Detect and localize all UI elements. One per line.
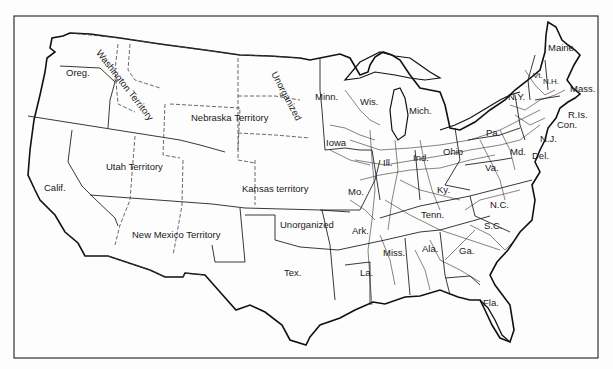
label-new-jersey: N.J. [540, 134, 557, 144]
label-unorganized-south: Unorganized [280, 220, 334, 230]
label-arkansas: Ark. [352, 226, 369, 236]
label-minnesota: Minn. [315, 92, 338, 102]
label-oregon: Oreg. [66, 68, 90, 78]
label-new-mexico-territory: New Mexico Territory [132, 230, 221, 240]
label-georgia: Ga. [459, 246, 474, 256]
label-north-carolina: N.C. [490, 200, 509, 210]
label-missouri: Mo. [348, 187, 364, 197]
label-massachusetts: Mass. [570, 84, 595, 94]
label-florida: Fla. [483, 298, 499, 308]
label-alabama: Ala. [422, 244, 438, 254]
label-virginia: Va. [485, 163, 499, 173]
label-connecticut: Con. [557, 120, 577, 130]
label-kansas-territory: Kansas territory [242, 184, 309, 194]
label-kentucky: Ky. [437, 185, 450, 195]
label-wisconsin: Wis. [360, 97, 378, 107]
label-maine: Maine [548, 43, 574, 53]
label-texas: Tex. [284, 268, 301, 278]
label-tennessee: Tenn. [421, 210, 444, 220]
label-utah-territory: Utah Territory [106, 162, 163, 172]
label-michigan: Mich. [409, 106, 432, 116]
label-mississippi: Miss. [383, 248, 405, 258]
label-maryland: Md. [510, 147, 526, 157]
label-pennsylvania: Pa. [486, 128, 500, 138]
label-illinois: Ill. [383, 158, 393, 168]
label-ohio: Ohio [443, 147, 463, 157]
label-vermont: Vt. [533, 72, 543, 80]
label-nebraska-territory: Nebraska Territory [191, 113, 268, 123]
label-indiana: Ind. [413, 153, 429, 163]
label-california: Calif. [44, 183, 66, 193]
label-iowa: Iowa [326, 138, 346, 148]
label-louisiana: La. [360, 268, 373, 278]
lake-michigan [390, 88, 408, 140]
label-south-carolina: S.C. [484, 221, 502, 231]
label-new-hampshire: N.H. [543, 78, 559, 86]
label-new-york: N.Y. [508, 92, 525, 102]
label-delaware: Del. [532, 151, 549, 161]
